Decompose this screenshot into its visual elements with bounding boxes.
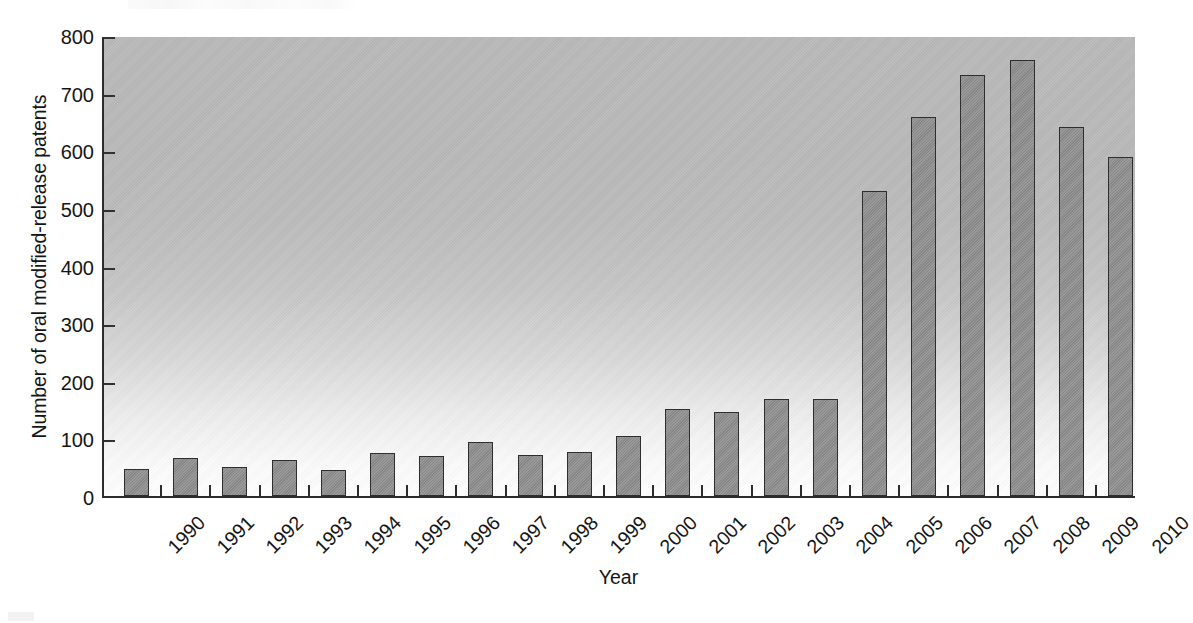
x-tick-label-2000: 2000 (655, 512, 700, 557)
x-tick-label-1998: 1998 (557, 512, 602, 557)
x-tick-mark-13 (800, 485, 802, 496)
x-tick-label-1995: 1995 (409, 512, 454, 557)
x-tick-mark-2 (259, 485, 261, 496)
bar-1997 (468, 442, 493, 496)
y-tick-label-100: 100 (44, 430, 94, 450)
bar-2009 (1059, 127, 1084, 496)
x-tick-label-2007: 2007 (1000, 512, 1045, 557)
y-axis-tick-labels: 0100200300400500600700800 (44, 0, 94, 623)
x-axis-title: Year (102, 566, 1135, 589)
y-tick-mark-700 (104, 95, 115, 97)
bar-2008 (1010, 60, 1035, 496)
bar-2005 (862, 191, 887, 496)
x-tick-mark-6 (455, 485, 457, 496)
x-tick-mark-19 (1095, 485, 1097, 496)
x-tick-label-2009: 2009 (1098, 512, 1143, 557)
y-tick-mark-200 (104, 383, 115, 385)
x-tick-label-2004: 2004 (852, 512, 897, 557)
x-tick-mark-5 (406, 485, 408, 496)
y-tick-mark-100 (104, 440, 115, 442)
x-tick-mark-14 (849, 485, 851, 496)
x-tick-label-1996: 1996 (458, 512, 503, 557)
x-tick-label-2001: 2001 (704, 512, 749, 557)
y-tick-mark-400 (104, 268, 115, 270)
scan-artifact-top (128, 0, 358, 9)
bar-1992 (222, 467, 247, 496)
bar-1990 (124, 469, 149, 496)
bar-1996 (419, 456, 444, 496)
x-tick-mark-18 (1046, 485, 1048, 496)
y-tick-label-800: 800 (44, 27, 94, 47)
bar-2001 (665, 409, 690, 496)
y-tick-label-300: 300 (44, 315, 94, 335)
x-tick-label-2008: 2008 (1049, 512, 1094, 557)
y-tick-label-200: 200 (44, 373, 94, 393)
bar-2002 (714, 412, 739, 496)
bar-1991 (173, 458, 198, 496)
y-tick-mark-600 (104, 152, 115, 154)
x-tick-mark-3 (308, 485, 310, 496)
bar-2006 (911, 117, 936, 496)
x-tick-label-1991: 1991 (212, 512, 257, 557)
bar-2010 (1108, 157, 1133, 496)
x-tick-label-2003: 2003 (803, 512, 848, 557)
x-tick-mark-9 (603, 485, 605, 496)
x-tick-label-2006: 2006 (950, 512, 995, 557)
x-tick-mark-15 (898, 485, 900, 496)
bar-1993 (272, 460, 297, 496)
bar-2004 (813, 399, 838, 496)
y-tick-mark-800 (104, 37, 115, 39)
x-tick-label-1990: 1990 (163, 512, 208, 557)
y-tick-label-400: 400 (44, 258, 94, 278)
x-tick-label-2005: 2005 (901, 512, 946, 557)
bar-2003 (764, 399, 789, 496)
x-tick-mark-8 (554, 485, 556, 496)
x-tick-label-2002: 2002 (754, 512, 799, 557)
x-tick-mark-4 (357, 485, 359, 496)
y-tick-label-0: 0 (44, 488, 94, 508)
bar-2000 (616, 436, 641, 496)
x-tick-mark-11 (701, 485, 703, 496)
y-tick-mark-500 (104, 210, 115, 212)
x-tick-mark-0 (160, 485, 162, 496)
x-tick-label-2010: 2010 (1147, 512, 1192, 557)
x-tick-label-1997: 1997 (508, 512, 553, 557)
scan-artifact-bottom (8, 612, 34, 621)
x-tick-label-1999: 1999 (606, 512, 651, 557)
y-tick-mark-300 (104, 325, 115, 327)
bar-2007 (960, 75, 985, 496)
bar-1994 (321, 470, 346, 497)
x-tick-mark-7 (505, 485, 507, 496)
x-tick-label-1992: 1992 (262, 512, 307, 557)
bar-1999 (567, 452, 592, 496)
x-tick-mark-12 (751, 485, 753, 496)
x-tick-mark-1 (209, 485, 211, 496)
x-tick-label-1994: 1994 (360, 512, 405, 557)
y-tick-label-600: 600 (44, 142, 94, 162)
y-tick-label-700: 700 (44, 85, 94, 105)
bar-1995 (370, 453, 395, 496)
x-tick-mark-16 (947, 485, 949, 496)
x-tick-label-1993: 1993 (311, 512, 356, 557)
plot-area (102, 37, 1135, 498)
x-tick-mark-10 (652, 485, 654, 496)
bar-1998 (518, 455, 543, 496)
y-tick-label-500: 500 (44, 200, 94, 220)
x-tick-mark-17 (997, 485, 999, 496)
